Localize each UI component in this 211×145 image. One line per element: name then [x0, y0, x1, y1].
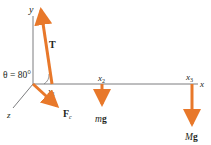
y-axis-label: y — [28, 4, 34, 15]
x1-label: x1 — [47, 86, 55, 97]
x3-label: x3 — [185, 72, 193, 83]
x-axis-label: x — [199, 79, 204, 89]
z-axis-label: z — [6, 110, 11, 120]
angle-label: θ = 80° — [3, 70, 31, 80]
x2-label: x2 — [97, 73, 105, 84]
small-weight-label: mg — [95, 114, 107, 124]
tension-label: T — [49, 39, 56, 50]
free-body-diagram: y x z θ = 80° T x1 Fc x2 mg x3 Mg — [0, 0, 211, 145]
large-weight-label: Mg — [184, 132, 198, 142]
z-axis — [13, 84, 33, 108]
contact-force-label: Fc — [63, 108, 72, 120]
angle-arc — [44, 74, 49, 84]
